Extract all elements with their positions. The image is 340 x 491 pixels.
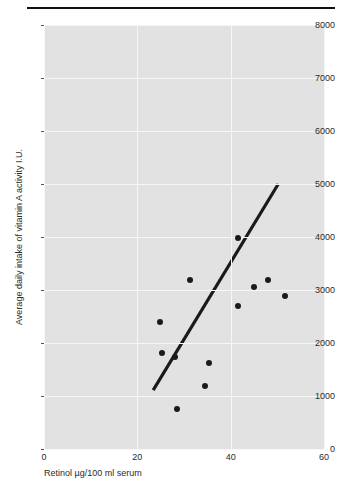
y-tick-mark	[41, 184, 44, 185]
gridline-horizontal	[44, 343, 324, 344]
x-tick-label: 60	[304, 452, 340, 463]
y-tick-mark	[41, 290, 44, 291]
y-tick-label: 3000	[297, 285, 335, 295]
plot-panel	[44, 25, 324, 449]
data-point	[235, 303, 241, 309]
y-tick-mark	[41, 78, 44, 79]
data-point	[282, 293, 288, 299]
gridline-horizontal	[44, 290, 324, 291]
gridline-horizontal	[44, 78, 324, 79]
x-tick-label: 20	[117, 452, 157, 463]
gridline-horizontal	[44, 184, 324, 185]
y-tick-label: 7000	[297, 73, 335, 83]
y-tick-mark	[41, 449, 44, 450]
data-point	[172, 354, 178, 360]
data-point	[159, 350, 165, 356]
gridline-horizontal	[44, 131, 324, 132]
y-tick-mark	[41, 25, 44, 26]
gridline-horizontal	[44, 449, 324, 450]
y-axis-title: Average daily intake of vitamin A activi…	[14, 112, 24, 362]
gridline-horizontal	[44, 396, 324, 397]
y-tick-mark	[41, 396, 44, 397]
gridline-vertical	[231, 25, 232, 449]
y-tick-label: 6000	[297, 126, 335, 136]
y-tick-label: 1000	[297, 391, 335, 401]
x-tick-label: 40	[211, 452, 251, 463]
gridline-horizontal	[44, 237, 324, 238]
y-tick-mark	[41, 131, 44, 132]
y-tick-label: 8000	[297, 20, 335, 30]
y-tick-mark	[41, 343, 44, 344]
x-axis-title: Retinol µg/100 ml serum	[44, 468, 142, 478]
gridline-vertical	[137, 25, 138, 449]
y-tick-label: 5000	[297, 179, 335, 189]
gridline-vertical	[44, 25, 45, 449]
y-tick-label: 2000	[297, 338, 335, 348]
x-tick-label: 0	[24, 452, 64, 463]
gridline-horizontal	[44, 25, 324, 26]
y-tick-mark	[41, 237, 44, 238]
header-rule	[27, 7, 335, 9]
y-tick-label: 4000	[297, 232, 335, 242]
